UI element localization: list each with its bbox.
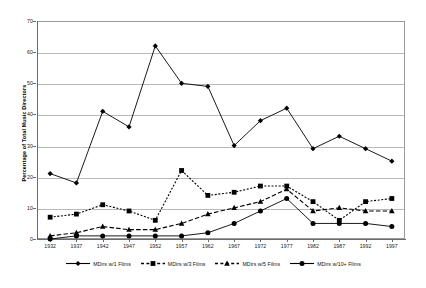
gridline [38,147,404,148]
y-tick-mark [33,114,36,115]
x-tick-mark [287,239,288,242]
x-tick-label: 1952 [149,243,161,249]
x-tick-label: 1972 [255,243,267,249]
x-tick-mark [182,239,183,242]
plot-area [37,21,405,239]
x-tick-label: 1942 [97,243,109,249]
legend-key-diamond-icon [65,259,91,268]
legend-label: MDirs w/10+ Films [317,261,361,267]
data-point [76,261,81,266]
data-point [300,261,305,266]
x-tick-label: 1957 [176,243,188,249]
legend-label: MDirs w/5 Films [242,261,280,267]
x-tick-label: 1987 [333,243,345,249]
y-tick-mark [33,177,36,178]
x-tick-label: 1992 [360,243,372,249]
data-point [225,261,231,266]
x-tick-mark [208,239,209,242]
x-tick-label: 1977 [281,243,293,249]
x-tick-mark [260,239,261,242]
x-tick-label: 1937 [71,243,83,249]
x-tick-mark [155,239,156,242]
y-axis-line [37,21,38,240]
legend-item-3[interactable]: MDirs w/5 Films [214,259,280,268]
gridline [38,53,404,54]
y-tick-mark [33,239,36,240]
legend-item-4[interactable]: MDirs w/10+ Films [289,259,361,268]
chart-legend: MDirs w/1 FilmsMDirs w/3 FilmsMDirs w/5 … [0,259,426,268]
x-tick-mark [129,239,130,242]
x-tick-mark [339,239,340,242]
x-tick-label: 1932 [44,243,56,249]
y-tick-mark [33,21,36,22]
legend-key-square-icon [140,259,166,268]
x-tick-mark [366,239,367,242]
y-tick-mark [33,146,36,147]
chart-container: Percentage of Total Music Directors 0102… [0,0,426,288]
legend-label: MDirs w/3 Films [168,261,206,267]
x-tick-mark [392,239,393,242]
x-tick-mark [313,239,314,242]
gridline [38,115,404,116]
x-axis-line [37,239,406,240]
x-tick-label: 1967 [228,243,240,249]
legend-label: MDirs w/1 Films [93,261,131,267]
x-tick-mark [50,239,51,242]
x-tick-mark [234,239,235,242]
gridline [38,84,404,85]
x-tick-label: 1947 [123,243,135,249]
legend-item-1[interactable]: MDirs w/1 Films [65,259,131,268]
legend-key-circle-icon [289,259,315,268]
gridline [38,209,404,210]
legend-key-triangle-icon [214,259,240,268]
x-tick-label: 1962 [202,243,214,249]
data-point [150,261,155,266]
x-tick-mark [103,239,104,242]
y-tick-mark [33,83,36,84]
x-tick-label: 1982 [307,243,319,249]
legend-item-2[interactable]: MDirs w/3 Films [140,259,206,268]
gridline [38,178,404,179]
y-tick-mark [33,208,36,209]
y-tick-mark [33,52,36,53]
y-axis-ticks: 010203040506070 [0,0,33,288]
x-tick-mark [76,239,77,242]
x-tick-label: 1997 [386,243,398,249]
